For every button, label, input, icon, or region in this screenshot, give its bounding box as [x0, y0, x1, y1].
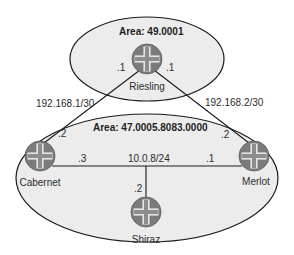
area-49-label: Area: 49.0001 — [119, 26, 184, 37]
addr-riesling-left: .1 — [117, 62, 126, 73]
router-name-riesling: Riesling — [129, 81, 165, 92]
router-shiraz[interactable] — [131, 197, 161, 227]
subnet-label-192-168-1: 192.168.1/30 — [36, 98, 95, 109]
addr-merlot-wan: .2 — [221, 129, 230, 140]
router-name-cabernet: Cabernet — [19, 177, 60, 188]
area-47-label: Area: 47.0005.8083.0000 — [93, 122, 208, 133]
router-icon — [239, 141, 269, 171]
addr-cabernet-lan: .3 — [78, 153, 87, 164]
router-merlot[interactable] — [239, 141, 269, 171]
addr-riesling-right: .1 — [166, 62, 175, 73]
router-name-shiraz: Shiraz — [132, 234, 160, 245]
subnet-label-192-168-2: 192.168.2/30 — [205, 97, 264, 108]
router-icon — [132, 44, 162, 74]
addr-cabernet-wan: .2 — [58, 128, 67, 139]
addr-merlot-lan: .1 — [206, 153, 215, 164]
router-icon — [25, 141, 55, 171]
router-riesling[interactable] — [132, 44, 162, 74]
addr-shiraz-lan: .2 — [134, 183, 143, 194]
router-name-merlot: Merlot — [242, 176, 270, 187]
subnet-label-10-0-8: 10.0.8/24 — [128, 153, 170, 164]
router-cabernet[interactable] — [25, 141, 55, 171]
network-diagram: Area: 49.0001 Area: 47.0005.8083.0000 Ri… — [0, 0, 294, 255]
router-icon — [131, 197, 161, 227]
